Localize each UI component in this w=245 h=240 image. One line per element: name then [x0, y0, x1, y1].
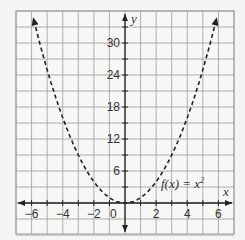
x-tick-label: −6 — [25, 207, 39, 221]
y-tick-label: 12 — [107, 132, 121, 146]
y-tick-label: 24 — [107, 68, 121, 82]
y-tick-label: 30 — [107, 36, 121, 50]
x-tick-label: 2 — [153, 207, 160, 221]
origin-label: 0 — [110, 207, 117, 221]
function-graph: −6−4−2246612182430 x y f(x) = x2 0 — [0, 0, 245, 240]
x-tick-label: 4 — [184, 207, 191, 221]
function-label: f(x) = x2 — [161, 176, 204, 191]
y-axis-label: y — [129, 11, 137, 26]
x-tick-label: 6 — [215, 207, 222, 221]
y-tick-label: 18 — [107, 100, 121, 114]
x-tick-label: −4 — [56, 207, 70, 221]
y-tick-label: 6 — [113, 164, 120, 178]
x-axis-label: x — [222, 184, 229, 199]
x-tick-label: −2 — [87, 207, 101, 221]
